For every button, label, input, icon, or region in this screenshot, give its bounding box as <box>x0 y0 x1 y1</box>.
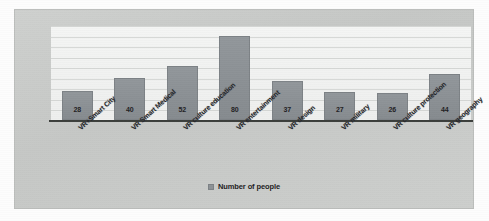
bar-value-label: 26 <box>378 106 407 114</box>
bar-value-label: 40 <box>115 106 144 114</box>
legend-label: Number of people <box>218 182 280 191</box>
category-slot: VR design <box>261 124 314 180</box>
category-slot: VR military <box>314 124 367 180</box>
bar-slot: 40 <box>104 26 157 120</box>
bar-slot: 27 <box>314 26 367 120</box>
bar-slot: 28 <box>51 26 104 120</box>
category-axis-labels: VR+Smart CityVR Smart MedicalVR culture … <box>51 124 471 180</box>
bar-slot: 37 <box>261 26 314 120</box>
bar[interactable]: 40 <box>114 78 145 120</box>
category-slot: VR entertainment <box>209 124 262 180</box>
category-slot: VR culture protection <box>366 124 419 180</box>
category-slot: VR geography <box>419 124 472 180</box>
bar-value-label: 37 <box>273 106 302 114</box>
bar-value-label: 27 <box>325 106 354 114</box>
chart-screenshot: 2840528037272644 VR+Smart CityVR Smart M… <box>0 0 489 221</box>
bar-slot: 26 <box>366 26 419 120</box>
category-slot: VR Smart Medical <box>104 124 157 180</box>
x-axis-line <box>49 120 473 122</box>
chart-legend: Number of people <box>15 182 473 191</box>
bar-slot: 44 <box>419 26 472 120</box>
bar-slot: 52 <box>156 26 209 120</box>
bar[interactable]: 80 <box>219 36 250 120</box>
legend-swatch-icon <box>208 184 214 190</box>
chart-frame: 2840528037272644 VR+Smart CityVR Smart M… <box>14 9 474 209</box>
category-slot: VR+Smart City <box>51 124 104 180</box>
category-slot: VR culture education <box>156 124 209 180</box>
bar-value-label: 44 <box>430 106 459 114</box>
bar-slot: 80 <box>209 26 262 120</box>
bar-value-label: 28 <box>63 106 92 114</box>
bar-value-label: 52 <box>168 106 197 114</box>
bar-value-label: 80 <box>220 106 249 114</box>
